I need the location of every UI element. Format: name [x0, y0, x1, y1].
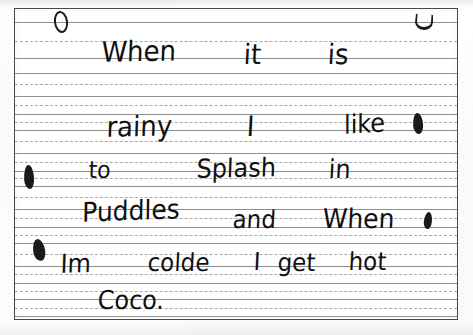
ruled-line-dashed-midline: [15, 141, 457, 142]
handwriting-scan-image: WhenitisrainyIliketoSplashinPuddlesandWh…: [0, 0, 473, 335]
ruled-line-dashed-midline: [15, 291, 457, 292]
ruled-line-dashed-midline: [15, 197, 457, 198]
ruled-line-dashed-midline: [15, 308, 457, 309]
handwritten-word: get: [277, 250, 316, 275]
ruled-line-dashed-midline: [15, 41, 457, 42]
handwritten-word: Puddles: [82, 196, 180, 226]
ruled-line-solid: [15, 73, 457, 74]
handwritten-word: and: [232, 207, 277, 232]
handwritten-word: Splash: [196, 155, 276, 182]
ruled-line-solid: [15, 316, 457, 317]
handwritten-word: hot: [348, 249, 387, 274]
handwritten-word: it: [243, 40, 262, 68]
handwritten-word: When: [322, 205, 395, 232]
scan-edge-shadow-bottom: [0, 321, 473, 335]
handwritten-word: to: [88, 158, 111, 182]
handwritten-word: I: [253, 249, 261, 274]
ruled-line-dashed-midline: [15, 84, 457, 85]
ruled-line-dashed-midline: [15, 235, 457, 236]
ruled-line-solid: [15, 186, 457, 187]
ruled-line-dashed-midline: [15, 122, 457, 123]
handwritten-word: rainy: [106, 112, 173, 141]
handwritten-word: When: [101, 37, 177, 66]
ruled-line-dashed-midline: [15, 105, 457, 106]
handwritten-word: like: [344, 110, 385, 138]
handwritten-word: is: [327, 40, 349, 68]
scan-edge-shadow-top: [0, 0, 473, 8]
handwritten-word: Coco.: [97, 287, 165, 313]
handwritten-word: colde: [147, 250, 210, 275]
ruled-line-solid: [15, 283, 457, 284]
ruled-line-solid: [15, 96, 457, 97]
ruled-line-solid: [15, 299, 457, 300]
ruled-line-solid: [15, 58, 457, 59]
handwritten-word: I: [246, 112, 255, 140]
ruled-line-solid: [15, 114, 457, 115]
ruled-line-solid: [15, 243, 457, 244]
handwritten-word: in: [328, 156, 351, 182]
handwritten-word: Im: [60, 251, 91, 277]
ruled-line-solid: [15, 130, 457, 131]
ruled-line-solid: [15, 22, 457, 23]
